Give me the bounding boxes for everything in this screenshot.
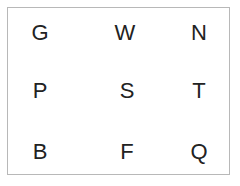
letter-r3c3: Q [184,141,214,163]
letter-r1c2: W [110,22,140,44]
letter-r2c2: S [112,80,142,102]
letter-r3c2: F [112,141,142,163]
letter-r3c1: B [25,141,55,163]
letter-r2c3: T [184,80,214,102]
letter-r2c1: P [25,80,55,102]
letter-r1c1: G [25,22,55,44]
letter-r1c3: N [184,22,214,44]
